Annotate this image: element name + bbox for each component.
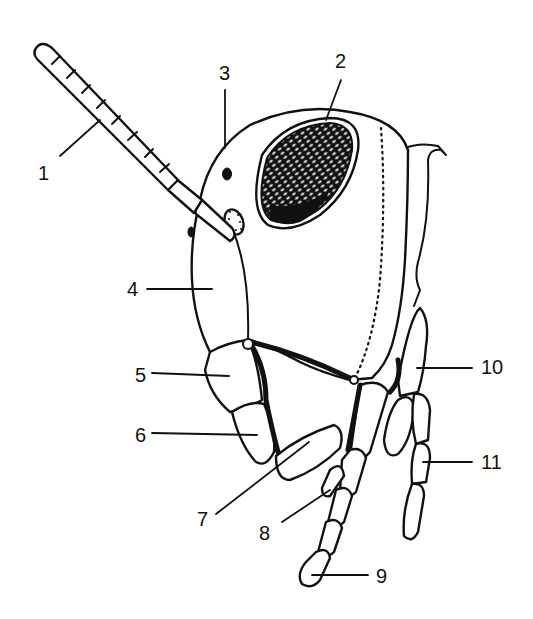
maxillary-palp xyxy=(300,383,388,587)
label-8: 8 xyxy=(259,522,270,544)
label-4: 4 xyxy=(127,278,138,300)
insect-head-diagram: 1 2 3 4 5 6 7 8 9 10 11 xyxy=(0,0,533,619)
label-1: 1 xyxy=(38,162,49,184)
lateral-ocellus xyxy=(188,227,194,237)
antenna xyxy=(34,44,247,241)
label-3: 3 xyxy=(219,62,230,84)
label-9: 9 xyxy=(376,565,387,587)
leader-8 xyxy=(282,490,330,522)
label-10: 10 xyxy=(481,356,503,378)
label-5: 5 xyxy=(135,364,146,386)
pronotum-edge xyxy=(405,144,446,306)
label-6: 6 xyxy=(135,424,146,446)
leader-1 xyxy=(60,120,100,156)
label-11: 11 xyxy=(481,451,502,473)
label-7: 7 xyxy=(197,508,208,530)
ocellus xyxy=(223,168,232,180)
label-2: 2 xyxy=(335,50,346,72)
